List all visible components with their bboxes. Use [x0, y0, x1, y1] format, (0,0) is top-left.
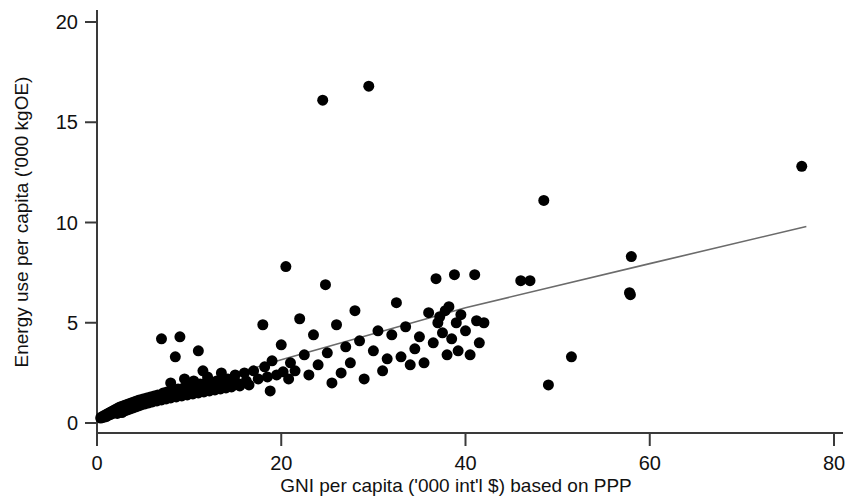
data-point [345, 357, 356, 368]
data-point [442, 349, 453, 360]
data-point [303, 369, 314, 380]
y-tick-label: 5 [67, 312, 78, 334]
data-point [320, 279, 331, 290]
data-point [382, 353, 393, 364]
data-point [326, 377, 337, 388]
data-point [253, 373, 264, 384]
data-point [449, 269, 460, 280]
data-point [280, 261, 291, 272]
data-point [262, 371, 273, 382]
data-point [391, 297, 402, 308]
data-point [331, 319, 342, 330]
data-point [359, 373, 370, 384]
data-point [354, 335, 365, 346]
data-point [386, 329, 397, 340]
data-point [377, 365, 388, 376]
y-tick-label: 20 [56, 11, 78, 33]
data-point [244, 379, 255, 390]
data-point [431, 273, 442, 284]
data-point [455, 309, 466, 320]
data-point [313, 359, 324, 370]
data-point [396, 351, 407, 362]
data-point [428, 337, 439, 348]
data-point [446, 333, 457, 344]
data-point [423, 307, 434, 318]
data-point [294, 313, 305, 324]
data-point [796, 161, 807, 172]
x-tick-label: 60 [639, 452, 661, 474]
data-point [478, 317, 489, 328]
data-point [193, 345, 204, 356]
data-point [626, 251, 637, 262]
data-point [156, 333, 167, 344]
data-point [465, 349, 476, 360]
chart-canvas: 05101520 Energy use per capita ('000 kgO… [0, 0, 847, 501]
data-point [409, 343, 420, 354]
data-point [276, 339, 287, 350]
data-point [543, 379, 554, 390]
data-point [372, 325, 383, 336]
data-point [363, 81, 374, 92]
data-point [308, 329, 319, 340]
data-point [368, 345, 379, 356]
data-point [437, 327, 448, 338]
data-point [340, 341, 351, 352]
data-point [170, 351, 181, 362]
data-point [566, 351, 577, 362]
data-point [443, 301, 454, 312]
y-tick-label: 10 [56, 212, 78, 234]
data-point [460, 325, 471, 336]
data-point [474, 337, 485, 348]
data-point [453, 345, 464, 356]
data-point [299, 349, 310, 360]
scatter-plot-figure: 05101520 Energy use per capita ('000 kgO… [0, 0, 847, 501]
data-point [400, 321, 411, 332]
data-point [336, 367, 347, 378]
data-point [414, 331, 425, 342]
data-point [349, 305, 360, 316]
data-point [174, 331, 185, 342]
data-point [469, 269, 480, 280]
data-point [290, 365, 301, 376]
x-tick-label: 80 [823, 452, 845, 474]
y-tick-label: 0 [67, 412, 78, 434]
data-point [257, 319, 268, 330]
chart-background [0, 0, 847, 501]
data-point [405, 359, 416, 370]
data-point [625, 289, 636, 300]
x-tick-label: 20 [270, 452, 292, 474]
data-point [317, 95, 328, 106]
data-point [322, 347, 333, 358]
y-tick-label: 15 [56, 111, 78, 133]
x-tick-label: 0 [91, 452, 102, 474]
x-axis-title: GNI per capita ('000 int'l $) based on P… [280, 475, 632, 496]
data-point [267, 355, 278, 366]
x-tick-label: 40 [454, 452, 476, 474]
data-point [419, 357, 430, 368]
data-point [538, 195, 549, 206]
data-point [524, 275, 535, 286]
y-axis-title: Energy use per capita ('000 kgOE) [11, 77, 32, 368]
data-point [265, 385, 276, 396]
